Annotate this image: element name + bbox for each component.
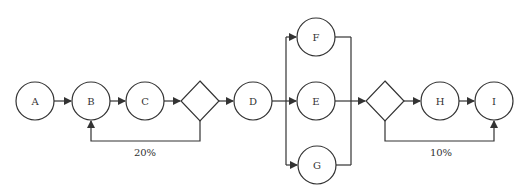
bypass-label-10-percent: 10% bbox=[430, 147, 452, 158]
node-i: I bbox=[475, 82, 513, 120]
node-a-label: A bbox=[30, 96, 39, 107]
node-i-label: I bbox=[492, 96, 496, 107]
node-c: C bbox=[126, 82, 164, 120]
loop-label-20-percent: 20% bbox=[134, 147, 156, 158]
node-f: F bbox=[297, 18, 335, 56]
node-e-label: E bbox=[312, 96, 319, 107]
edge-decision1-b-loop bbox=[91, 121, 200, 141]
node-b-label: B bbox=[87, 96, 94, 107]
node-h-label: H bbox=[436, 96, 445, 107]
edge-decision2-i-bypass bbox=[385, 121, 494, 141]
node-d: D bbox=[234, 82, 272, 120]
process-flow-diagram: A B C D F E G H I 20% 10% bbox=[0, 0, 526, 194]
node-h: H bbox=[421, 82, 459, 120]
node-g: G bbox=[298, 146, 336, 184]
node-g-label: G bbox=[313, 160, 321, 171]
node-d-label: D bbox=[249, 96, 257, 107]
node-e: E bbox=[297, 82, 335, 120]
node-b: B bbox=[72, 82, 110, 120]
decision-diamond-2 bbox=[366, 81, 404, 121]
node-c-label: C bbox=[141, 96, 149, 107]
decision-diamond-1 bbox=[181, 81, 219, 121]
node-f-label: F bbox=[313, 32, 320, 43]
node-a: A bbox=[16, 82, 54, 120]
